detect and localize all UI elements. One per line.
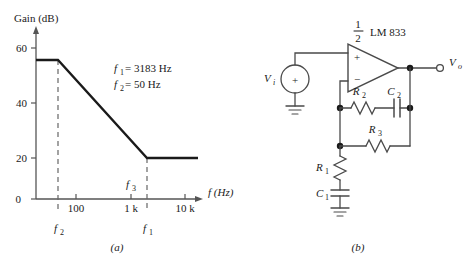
wire-source-to-noninverting	[295, 53, 348, 65]
x-axis-title: f (Hz)	[208, 186, 234, 199]
svg-text:3: 3	[378, 129, 382, 138]
output-label-vo: V o	[449, 56, 462, 71]
y-tick-label-40: 40	[16, 97, 28, 109]
y-axis	[33, 26, 39, 199]
x-ticks: 100 1 k 10 k	[68, 194, 195, 214]
gain-trace	[36, 60, 198, 158]
svg-text:= 3183 Hz: = 3183 Hz	[125, 62, 172, 74]
ground-symbol-icon-c1	[331, 208, 349, 216]
svg-text:2: 2	[355, 32, 361, 44]
svg-text:V: V	[264, 72, 272, 84]
svg-text:2: 2	[120, 84, 124, 93]
circuit-svg: 1 2 LM 833 + − + V i	[240, 0, 471, 263]
voltage-source-polarity: +	[292, 74, 298, 86]
axis-marker-label-f3: f 3	[126, 178, 136, 193]
svg-text:1: 1	[325, 193, 329, 202]
svg-text:f: f	[54, 222, 59, 234]
resistor-r1-icon	[334, 156, 346, 180]
opamp-inverting-terminal: −	[354, 73, 360, 85]
panel-a-caption: (a)	[111, 241, 124, 254]
svg-text:f: f	[114, 62, 119, 74]
svg-text:LM 833: LM 833	[370, 26, 406, 38]
resistor-r2-icon	[351, 102, 375, 114]
capacitor-c2-icon	[394, 99, 400, 117]
svg-text:R: R	[352, 85, 360, 97]
svg-text:i: i	[273, 78, 275, 87]
svg-text:1: 1	[355, 18, 361, 30]
source-label-vi: V i	[264, 72, 275, 87]
svg-text:R: R	[315, 161, 323, 173]
svg-text:1: 1	[149, 228, 153, 237]
svg-text:2: 2	[60, 228, 64, 237]
svg-text:C: C	[387, 85, 395, 97]
svg-text:f: f	[143, 222, 148, 234]
capacitor-c1-icon	[331, 190, 349, 196]
x-tick-label-100: 100	[68, 202, 85, 214]
label-r2: R 2	[352, 85, 366, 100]
annotation-f2: f 2 = 50 Hz	[114, 78, 161, 93]
y-tick-label-20: 20	[16, 152, 28, 164]
label-c2: C 2	[387, 85, 401, 100]
svg-text:o: o	[458, 62, 462, 71]
y-axis-title: Gain (dB)	[14, 12, 59, 25]
resistor-r3-icon	[366, 140, 390, 152]
figure-root: Gain (dB) f (Hz) 0 20	[0, 0, 471, 263]
panel-b-circuit: 1 2 LM 833 + − + V i	[240, 0, 471, 263]
breakpoint-label-f2: f 2	[54, 222, 64, 237]
svg-text:2: 2	[362, 91, 366, 100]
y-ticks: 0 20 40 60	[16, 42, 37, 205]
panel-a-gain-plot: Gain (dB) f (Hz) 0 20	[0, 0, 240, 263]
svg-text:C: C	[316, 187, 324, 199]
ground-symbol-icon-source	[286, 106, 304, 114]
breakpoint-label-f1: f 1	[143, 222, 153, 237]
svg-text:3: 3	[132, 184, 136, 193]
y-tick-label-60: 60	[16, 42, 28, 54]
wire-inverting-to-node	[340, 81, 348, 108]
svg-text:1: 1	[120, 68, 124, 77]
y-tick-label-0: 0	[16, 193, 22, 205]
opamp-noninverting-terminal: +	[354, 51, 360, 63]
svg-text:f: f	[126, 178, 131, 190]
label-c1: C 1	[316, 187, 329, 202]
panel-b-caption: (b)	[352, 241, 365, 254]
annotation-f1: f 1 = 3183 Hz	[114, 62, 172, 77]
svg-text:f: f	[114, 78, 119, 90]
gain-plot-svg: Gain (dB) f (Hz) 0 20	[0, 0, 240, 263]
x-axis-title-f: f (Hz)	[208, 186, 234, 199]
label-r3: R 3	[368, 123, 382, 138]
x-tick-label-10k: 10 k	[175, 202, 195, 214]
ic-label: 1 2 LM 833	[354, 18, 406, 44]
svg-text:V: V	[449, 56, 457, 68]
x-tick-label-1k: 1 k	[124, 202, 138, 214]
svg-text:1: 1	[325, 167, 329, 176]
svg-text:2: 2	[397, 91, 401, 100]
output-terminal-icon	[437, 65, 444, 72]
svg-text:= 50 Hz: = 50 Hz	[125, 78, 161, 90]
svg-text:R: R	[368, 123, 376, 135]
label-r1: R 1	[315, 161, 329, 176]
